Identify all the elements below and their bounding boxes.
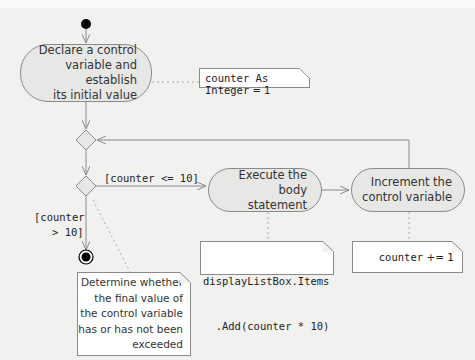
note-decision-comment: Determine whether the final value of the… <box>77 272 191 356</box>
note-decision-line-5: exceeded <box>78 337 183 353</box>
guard-exit-line-2: > 10] <box>52 225 84 240</box>
merge-node <box>76 130 96 150</box>
activity-execute-line-2: statement <box>209 198 307 213</box>
activity-increment-line-1: Increment the <box>352 175 452 190</box>
note-fold-icon <box>452 241 463 252</box>
activity-increment: Increment the control variable <box>351 168 465 212</box>
activity-execute: Execute the body statement <box>208 168 322 212</box>
note-incr-variable: counter <box>379 251 423 263</box>
note-incr-operation: += 1 <box>423 251 454 263</box>
activity-execute-line-1: Execute the body <box>209 168 307 198</box>
guard-continue: [counter <= 10] <box>104 171 199 186</box>
note-decision-line-4: has or has not been <box>78 322 183 338</box>
activity-declare-line-2: variable and establish <box>21 58 137 88</box>
note-increment: counter += 1 <box>352 241 463 273</box>
note-fold-icon <box>299 68 310 79</box>
note-decision-line-3: the control variable <box>78 306 183 322</box>
note-init-value: = 1 <box>249 85 270 96</box>
note-initialization: counter As Integer = 1 <box>199 68 310 88</box>
note-decision-line-1: Determine whether <box>78 275 183 291</box>
decision-node <box>76 176 96 196</box>
note-decision-line-2: the final value of <box>78 291 183 307</box>
activity-increment-line-2: control variable <box>352 190 452 205</box>
note-fold-icon <box>180 272 191 283</box>
activity-declare-line-3: its initial value <box>21 88 137 103</box>
initial-node <box>81 19 91 29</box>
note-body-line-1: displayListBox.Items <box>203 274 333 289</box>
activity-declare-line-1: Declare a control <box>21 43 137 58</box>
note-body-statement: displayListBox.Items .Add(counter * 10) <box>200 241 334 275</box>
activity-declare: Declare a control variable and establish… <box>20 44 152 102</box>
note-fold-icon <box>323 241 334 252</box>
guard-exit-line-1: [counter <box>34 210 85 225</box>
note-body-line-2: .Add(counter * 10) <box>203 319 333 334</box>
